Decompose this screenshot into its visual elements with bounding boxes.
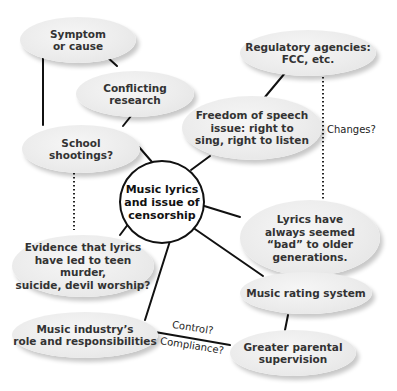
node-label: Symptom or cause (50, 28, 106, 53)
edge-school-center (139, 147, 152, 162)
edge-rating-parental (285, 315, 288, 330)
center-label: Music lyrics and issue of censorship (124, 183, 199, 222)
node-label: Freedom of speech issue: right to sing, … (195, 109, 309, 147)
node-symptom-or-cause: Symptom or cause (20, 17, 136, 63)
node-evidence-lyrics: Evidence that lyrics have led to teen mu… (12, 235, 154, 297)
node-conflicting-research: Conflicting research (76, 71, 194, 117)
node-label: School shootings? (49, 137, 113, 162)
node-label: Greater parental supervision (243, 341, 342, 366)
edge-freedom-center (191, 156, 210, 170)
node-label: Music industry’s role and responsibiliti… (13, 323, 156, 348)
edge-regulatory-freedom (265, 73, 285, 97)
edge-center-lyrics (201, 205, 240, 217)
node-regulatory-agencies: Regulatory agencies: FCC, etc. (240, 30, 376, 76)
node-label: Regulatory agencies: FCC, etc. (245, 41, 370, 66)
node-parental-supervision: Greater parental supervision (230, 330, 356, 376)
center-topic: Music lyrics and issue of censorship (119, 160, 205, 244)
node-music-industry: Music industry’s role and responsibiliti… (12, 312, 158, 358)
node-label: Evidence that lyrics have led to teen mu… (12, 241, 154, 291)
node-label: Music rating system (246, 287, 366, 300)
node-music-rating-system: Music rating system (240, 272, 372, 314)
node-lyrics-seemed-bad: Lyrics have always seemed “bad” to older… (240, 200, 380, 276)
node-label: Lyrics have always seemed “bad” to older… (265, 213, 355, 263)
edge-label-changes: Changes? (327, 124, 376, 135)
node-label: Conflicting research (103, 82, 167, 107)
node-school-shootings: School shootings? (22, 125, 140, 173)
node-freedom-of-speech: Freedom of speech issue: right to sing, … (182, 96, 322, 160)
